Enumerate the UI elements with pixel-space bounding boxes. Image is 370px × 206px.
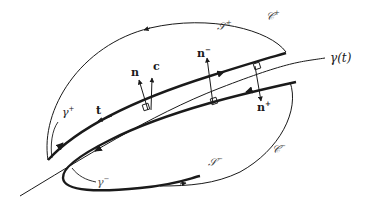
c-plus-base: 𝒞: [266, 10, 274, 23]
n-minus-base: n: [197, 47, 205, 60]
gamma-minus-sup: −: [104, 175, 110, 183]
boundary-c-minus-label: 𝒞−: [272, 143, 286, 155]
upper-thick-curve: [48, 53, 286, 160]
surface-s-plus-label: 𝒮+: [217, 20, 232, 32]
gamma-minus-arc: [72, 168, 96, 182]
s-plus-sup: +: [226, 19, 232, 27]
c-minus-sup: −: [280, 142, 286, 150]
gamma-curve: [20, 58, 325, 196]
gamma-plus-label: γ+: [62, 106, 74, 118]
gamma-minus-base: γ: [97, 176, 104, 189]
s-plus-base: 𝒮: [217, 20, 226, 33]
right-angle-marker-3: [253, 62, 261, 70]
normal-vector-n-plus: [255, 66, 261, 101]
gamma-plus-sup: +: [69, 105, 75, 113]
gamma-minus-label: γ−: [97, 176, 109, 188]
n-plus-base: n: [257, 101, 265, 114]
surface-s-minus-label: 𝒮−: [208, 156, 223, 168]
n-plus-sup: +: [265, 99, 271, 108]
vector-c: [151, 78, 152, 110]
n-minus-label: n−: [197, 46, 211, 59]
diagram-canvas: γ(t) t n c n− n+ 𝒮+ 𝒞+ 𝒮− 𝒞− γ+ γ−: [0, 0, 370, 206]
n-minus-sup: −: [205, 45, 211, 54]
c-plus-sup: +: [274, 9, 280, 17]
n-plus-label: n+: [257, 100, 271, 113]
c-minus-base: 𝒞: [272, 143, 280, 156]
diagram-drawing: [0, 0, 370, 206]
normal-vector-n: [139, 80, 148, 110]
gamma-plus-base: γ: [62, 106, 69, 119]
c-label: c: [153, 61, 160, 72]
normal-label: n: [131, 67, 139, 78]
lower-thick-curve: [63, 82, 296, 190]
boundary-c-plus-label: 𝒞+: [266, 10, 280, 22]
arrow-c-minus: [180, 183, 186, 184]
tangent-label: t: [96, 105, 101, 116]
gamma-t-label: γ(t): [330, 52, 351, 64]
normal-vector-n-minus: [207, 58, 213, 104]
s-minus-base: 𝒮: [208, 156, 217, 169]
s-minus-sup: −: [217, 155, 223, 163]
